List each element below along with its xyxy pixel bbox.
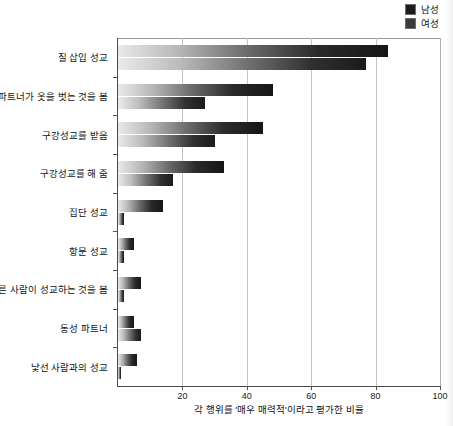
gridline-60	[311, 38, 312, 386]
x-tick-label-20: 20	[177, 391, 187, 401]
y-axis-label-3: 구강성교를 해 줌	[40, 166, 108, 180]
y-axis-label-5: 항문 성교	[69, 244, 108, 258]
bar-male-6	[118, 277, 141, 289]
bar-female-6	[118, 290, 124, 302]
bar-male-7	[118, 316, 134, 328]
y-tick-8	[113, 347, 118, 348]
bar-female-7	[118, 329, 141, 341]
bar-female-4	[118, 213, 124, 225]
plot-top-border	[118, 38, 440, 39]
y-tick-7	[113, 309, 118, 310]
y-axis-label-8: 낯선 사람과의 성교	[31, 360, 108, 374]
legend-swatch-icon	[405, 4, 416, 15]
bar-chart-figure: 남성 여성 질 삽입 성교파트너가 옷을 벗는 것을 봄구강성교를 받음구강성교…	[0, 0, 453, 426]
gridline-100	[440, 38, 441, 386]
bar-male-3	[118, 161, 224, 173]
bar-male-4	[118, 200, 163, 212]
bar-female-0	[118, 58, 366, 70]
x-tick-20	[182, 386, 183, 390]
bar-male-2	[118, 122, 263, 134]
bar-female-5	[118, 251, 124, 263]
plot-area: 20406080100	[118, 38, 440, 386]
x-axis-title: 각 행위를 '매우 매력적'이라고 평가한 비율	[118, 402, 440, 416]
chart-legend: 남성 여성	[405, 4, 439, 29]
legend-swatch-icon	[405, 18, 416, 29]
bar-female-1	[118, 97, 205, 109]
x-tick-80	[376, 386, 377, 390]
y-tick-4	[113, 193, 118, 194]
legend-item-female: 여성	[405, 18, 439, 29]
x-tick-label-100: 100	[432, 391, 447, 401]
legend-label-female: 여성	[421, 19, 439, 29]
gridline-80	[376, 38, 377, 386]
y-axis-label-6: 다른 사람이 성교하는 것을 봄	[0, 282, 108, 296]
x-tick-label-60: 60	[306, 391, 316, 401]
y-axis-label-2: 구강성교를 받음	[42, 128, 108, 142]
y-axis-category-labels: 질 삽입 성교파트너가 옷을 벗는 것을 봄구강성교를 받음구강성교를 해 줌집…	[0, 38, 113, 386]
bar-female-2	[118, 135, 215, 147]
bar-male-5	[118, 238, 134, 250]
y-tick-3	[113, 154, 118, 155]
x-tick-100	[440, 386, 441, 390]
bar-male-8	[118, 354, 137, 366]
bar-male-0	[118, 45, 388, 57]
y-axis-label-0: 질 삽입 성교	[58, 50, 108, 64]
bar-female-8	[118, 367, 121, 379]
x-tick-label-80: 80	[371, 391, 381, 401]
y-axis-label-4: 집단 성교	[69, 205, 108, 219]
x-axis-line	[117, 386, 441, 387]
legend-item-male: 남성	[405, 4, 439, 15]
bar-male-1	[118, 84, 273, 96]
x-tick-40	[247, 386, 248, 390]
y-tick-2	[113, 115, 118, 116]
legend-label-male: 남성	[421, 5, 439, 15]
x-tick-label-40: 40	[242, 391, 252, 401]
page-edge-shading	[446, 0, 453, 426]
x-tick-60	[311, 386, 312, 390]
y-tick-1	[113, 77, 118, 78]
y-axis-label-7: 동성 파트너	[60, 321, 108, 335]
y-tick-5	[113, 231, 118, 232]
y-tick-6	[113, 270, 118, 271]
bar-female-3	[118, 174, 173, 186]
y-axis-label-1: 파트너가 옷을 벗는 것을 봄	[0, 89, 108, 103]
